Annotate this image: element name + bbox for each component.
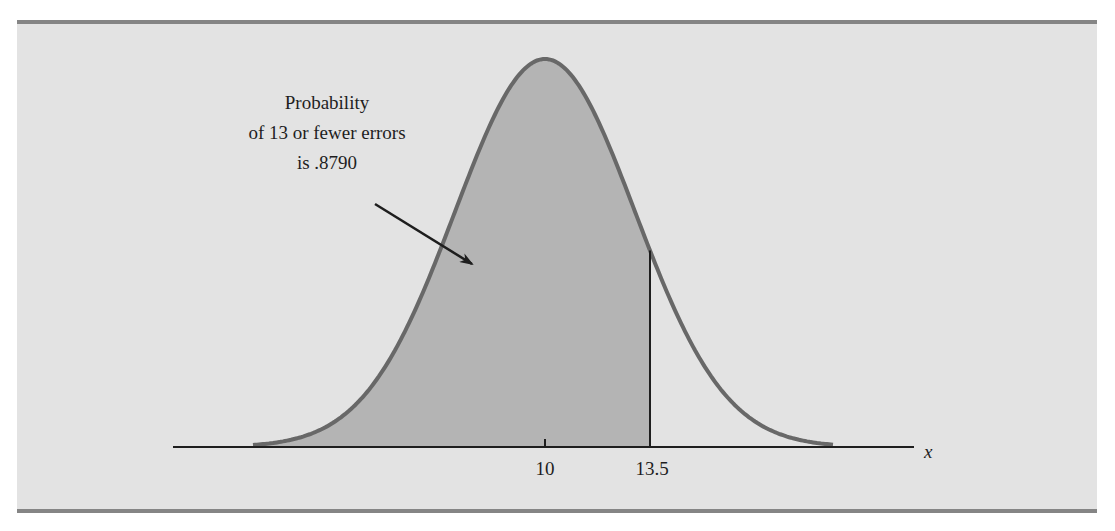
annotation-line-2: of 13 or fewer errors xyxy=(248,122,405,143)
normal-distribution-chart: 10 13.5 x Probability of 13 or fewer err… xyxy=(0,0,1115,531)
tick-label-10: 10 xyxy=(536,458,555,479)
tick-label-13-5: 13.5 xyxy=(635,458,668,479)
annotation-line-1: Probability xyxy=(285,92,370,113)
annotation-line-3: is .8790 xyxy=(297,152,357,173)
shaded-probability-area xyxy=(253,59,650,447)
x-axis-label: x xyxy=(923,441,933,462)
